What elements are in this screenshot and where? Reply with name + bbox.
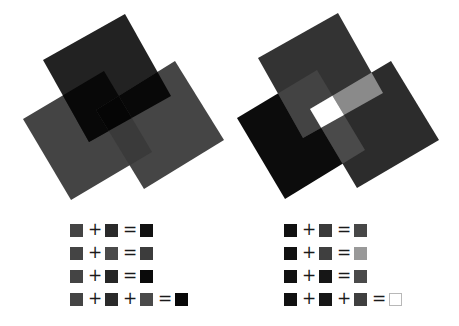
plus-sign: + — [302, 219, 316, 239]
equals-sign: = — [372, 288, 386, 308]
result-swatch — [140, 247, 153, 260]
color-swatch — [105, 293, 118, 306]
color-swatch — [284, 293, 297, 306]
plus-sign: + — [88, 288, 102, 308]
equals-sign: = — [158, 288, 172, 308]
color-swatch — [105, 224, 118, 237]
plus-sign: + — [302, 265, 316, 285]
equals-sign: = — [337, 265, 351, 285]
result-swatch — [354, 247, 367, 260]
color-swatch — [105, 270, 118, 283]
equals-sign: = — [337, 242, 351, 262]
plus-sign: + — [302, 288, 316, 308]
plus-sign: + — [123, 288, 137, 308]
overlapping-squares-diagram — [0, 0, 459, 210]
plus-sign: + — [88, 265, 102, 285]
color-swatch — [70, 224, 83, 237]
plus-sign: + — [88, 219, 102, 239]
color-swatch — [140, 293, 153, 306]
result-swatch — [140, 270, 153, 283]
color-swatch — [319, 247, 332, 260]
color-swatch — [319, 224, 332, 237]
color-swatch — [70, 270, 83, 283]
color-swatch — [354, 293, 367, 306]
color-swatch — [284, 247, 297, 260]
color-swatch — [319, 293, 332, 306]
equals-sign: = — [123, 242, 137, 262]
result-swatch — [140, 224, 153, 237]
plus-sign: + — [88, 242, 102, 262]
color-swatch — [319, 270, 332, 283]
equals-sign: = — [123, 265, 137, 285]
plus-sign: + — [337, 288, 351, 308]
result-swatch — [354, 224, 367, 237]
result-swatch — [354, 270, 367, 283]
color-swatch — [284, 224, 297, 237]
color-swatch — [105, 247, 118, 260]
color-swatch — [70, 247, 83, 260]
plus-sign: + — [302, 242, 316, 262]
color-swatch — [284, 270, 297, 283]
color-swatch — [70, 293, 83, 306]
additive-figure — [237, 13, 439, 199]
subtractive-figure — [23, 14, 224, 200]
result-swatch — [175, 293, 188, 306]
equals-sign: = — [123, 219, 137, 239]
result-swatch — [389, 293, 402, 306]
equals-sign: = — [337, 219, 351, 239]
